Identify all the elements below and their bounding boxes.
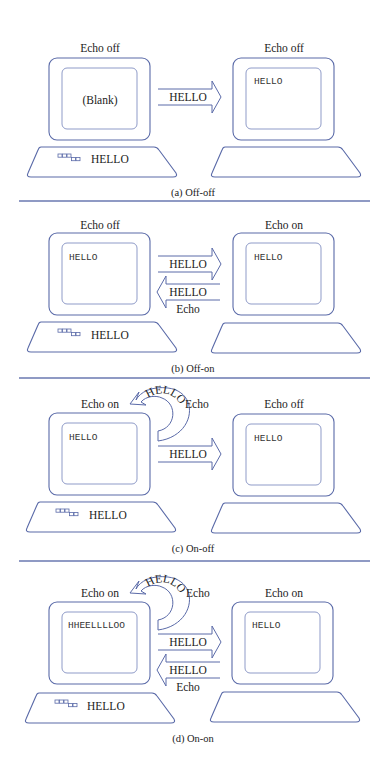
- right-screen-text: HELLO: [254, 252, 283, 263]
- left-monitor: [49, 233, 150, 315]
- back-arrow-sublabel: Echo: [176, 681, 200, 693]
- keys-icon: [55, 700, 77, 707]
- forward-arrow-label: HELLO: [169, 91, 207, 103]
- echo-modes-diagram: Echo off (Blank) HELLO HELLO Echo off HE…: [0, 0, 387, 772]
- right-echo-label: Echo off: [264, 398, 304, 410]
- panel-on-off: Echo on HELLO HELLO HELLO Echo HELLO Ech…: [26, 383, 360, 555]
- panel-caption: (b) Off-on: [171, 363, 215, 375]
- local-echo-text: HELLO: [143, 383, 188, 405]
- keys-icon: [56, 509, 78, 516]
- back-arrow-sublabel: Echo: [176, 303, 200, 315]
- right-keyboard: [210, 692, 359, 722]
- right-monitor: [233, 414, 334, 496]
- left-monitor: [49, 602, 150, 684]
- right-echo-label: Echo on: [265, 219, 303, 231]
- keyboard-typed-text: HELLO: [89, 509, 127, 521]
- right-monitor: [233, 58, 334, 140]
- right-keyboard: [211, 147, 360, 177]
- local-echo-text: HELLO: [143, 572, 188, 594]
- forward-arrow-label: HELLO: [169, 636, 207, 648]
- back-arrow-label: HELLO: [169, 664, 207, 676]
- forward-arrow-label: HELLO: [169, 258, 207, 270]
- keyboard-typed-text: HELLO: [91, 153, 129, 165]
- panel-caption: (c) On-off: [172, 543, 215, 555]
- keyboard-typed-text: HELLO: [87, 700, 125, 712]
- local-echo-label: Echo: [185, 398, 209, 410]
- right-echo-label: Echo off: [264, 42, 304, 54]
- local-echo-arrow: HELLO: [130, 572, 190, 630]
- local-echo-arrow: HELLO: [130, 383, 190, 441]
- right-keyboard: [211, 503, 360, 533]
- local-echo-label: Echo: [186, 587, 210, 599]
- left-echo-label: Echo on: [81, 587, 119, 599]
- right-echo-label: Echo on: [265, 587, 303, 599]
- panel-off-off: Echo off (Blank) HELLO HELLO Echo off HE…: [27, 42, 360, 199]
- left-screen-text: HHEELLLLOO: [68, 620, 125, 631]
- keys-icon: [58, 329, 80, 336]
- right-screen-text: HELLO: [254, 433, 283, 444]
- back-arrow-label: HELLO: [169, 286, 207, 298]
- forward-arrow-label: HELLO: [169, 448, 207, 460]
- right-screen-text: HELLO: [252, 620, 281, 631]
- panel-on-on: Echo on HHEELLLLOO HELLO HELLO Echo HELL…: [25, 572, 359, 745]
- panel-off-on: Echo off HELLO HELLO HELLO HELLO Echo Ec…: [27, 219, 360, 375]
- keyboard-typed-text: HELLO: [91, 329, 129, 341]
- left-echo-label: Echo off: [80, 42, 120, 54]
- left-echo-label: Echo on: [81, 398, 119, 410]
- panel-caption: (d) On-on: [172, 733, 214, 745]
- right-keyboard: [211, 323, 360, 353]
- right-monitor: [232, 602, 333, 684]
- right-monitor: [233, 233, 334, 315]
- left-screen-text: HELLO: [69, 252, 98, 263]
- left-echo-label: Echo off: [80, 219, 120, 231]
- keys-icon: [58, 154, 80, 161]
- left-screen-text: HELLO: [69, 432, 98, 443]
- panel-caption: (a) Off-off: [171, 187, 216, 199]
- left-screen-text: (Blank): [82, 94, 117, 107]
- left-monitor: [49, 413, 150, 495]
- right-screen-text: HELLO: [254, 76, 283, 87]
